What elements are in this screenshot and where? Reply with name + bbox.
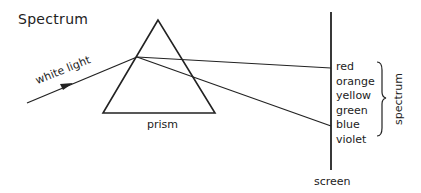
violet-ray bbox=[137, 57, 331, 126]
color-blue: blue bbox=[336, 118, 375, 133]
spectrum-brace bbox=[377, 62, 386, 136]
color-orange: orange bbox=[336, 75, 375, 90]
color-violet: violet bbox=[336, 133, 375, 148]
color-red: red bbox=[336, 60, 375, 75]
spectrum-label: spectrum bbox=[392, 73, 405, 125]
color-list: red orange yellow green blue violet bbox=[336, 60, 375, 147]
color-yellow: yellow bbox=[336, 89, 375, 104]
red-ray bbox=[137, 57, 331, 68]
screen-label: screen bbox=[314, 176, 351, 187]
color-green: green bbox=[336, 104, 375, 119]
prism-label: prism bbox=[147, 119, 178, 130]
prism-shape bbox=[103, 20, 215, 113]
